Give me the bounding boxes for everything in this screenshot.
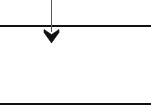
diagram-figure — [0, 0, 151, 112]
canvas-background — [0, 0, 151, 112]
diagram-canvas: Two horizontal rules with a vertical dow… — [0, 0, 151, 112]
